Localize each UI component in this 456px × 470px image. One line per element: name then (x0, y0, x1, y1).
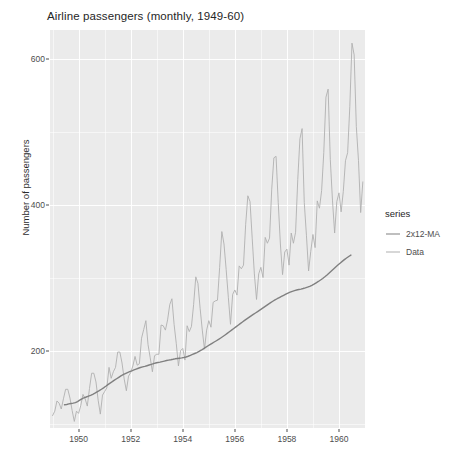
x-axis-tick-label: 1958 (257, 434, 317, 444)
y-axis-tick-mark (46, 351, 49, 352)
series-lines (50, 30, 365, 428)
y-axis-title: Number of passengers (20, 88, 31, 288)
x-axis-tick-label: 1950 (49, 434, 109, 444)
legend-key-line (386, 234, 400, 235)
chart-figure: Airline passengers (monthly, 1949-60) Nu… (0, 0, 456, 470)
x-axis-tick-mark (182, 429, 183, 432)
x-axis-tick-label: 1954 (153, 434, 213, 444)
legend-key-swatch (385, 226, 401, 242)
legend-item-label: 2x12-MA (406, 229, 440, 239)
legend-item-label: Data (406, 247, 424, 257)
x-axis-tick-mark (338, 429, 339, 432)
x-axis-tick-mark (234, 429, 235, 432)
plot-panel (50, 30, 365, 428)
legend-item[interactable]: 2x12-MA (385, 226, 455, 242)
x-axis-tick-label: 1956 (205, 434, 265, 444)
legend-key-line (386, 252, 400, 253)
y-axis-tick-label: 400 (0, 200, 45, 210)
x-axis-tick-mark (286, 429, 287, 432)
y-axis-tick-mark (46, 205, 49, 206)
y-axis-tick-label: 600 (0, 54, 45, 64)
legend: series 2x12-MAData (385, 208, 455, 262)
y-axis-tick-mark (46, 59, 49, 60)
legend-item-list: 2x12-MAData (385, 226, 455, 260)
legend-title: series (385, 208, 455, 219)
x-axis-tick-label: 1960 (309, 434, 369, 444)
legend-key-swatch (385, 244, 401, 260)
x-axis-tick-mark (78, 429, 79, 432)
series-line-data (53, 43, 363, 421)
x-axis-tick-label: 1952 (101, 434, 161, 444)
x-axis-tick-mark (130, 429, 131, 432)
legend-item[interactable]: Data (385, 244, 455, 260)
page-title: Airline passengers (monthly, 1949-60) (47, 10, 244, 22)
y-axis-tick-label: 200 (0, 346, 45, 356)
